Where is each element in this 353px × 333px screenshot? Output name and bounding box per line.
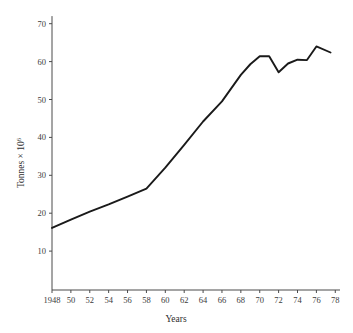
x-tick-label: 56 [123, 295, 132, 305]
x-tick-label: 54 [104, 295, 113, 305]
y-axis-title: Tonnes × 106 [15, 137, 26, 188]
y-tick-label: 50 [38, 95, 47, 105]
chart-page: 10203040506070 1948505254565860626466687… [0, 0, 353, 333]
y-tick-label: 30 [38, 170, 47, 180]
data-series-line [52, 46, 331, 228]
y-tick-label: 40 [38, 132, 47, 142]
y-tick-label: 70 [38, 19, 47, 29]
x-tick-label: 62 [180, 295, 189, 305]
y-tick-label: 20 [38, 208, 47, 218]
x-tick-label: 50 [67, 295, 76, 305]
x-axis-title: Years [165, 314, 187, 324]
y-axis-title-group: Tonnes × 106 [15, 137, 26, 188]
y-tick-label: 10 [38, 246, 47, 256]
x-tick-label: 64 [199, 295, 208, 305]
x-tick-label: 66 [218, 295, 227, 305]
y-axis-title-text: Tonnes × 10 [16, 141, 26, 188]
y-tick-label: 60 [38, 57, 47, 67]
x-tick-label: 1948 [44, 295, 61, 305]
x-axis-ticks: 1948505254565860626466687072747678 [44, 290, 340, 305]
x-tick-label: 60 [161, 295, 170, 305]
x-tick-label: 68 [237, 295, 246, 305]
y-axis-ticks: 10203040506070 [38, 19, 53, 256]
x-tick-label: 72 [274, 295, 283, 305]
x-tick-label: 70 [255, 295, 264, 305]
x-tick-label: 76 [312, 295, 321, 305]
y-axis-title-exponent: 6 [15, 137, 22, 141]
x-tick-label: 52 [86, 295, 95, 305]
x-tick-label: 58 [142, 295, 151, 305]
line-chart: 10203040506070 1948505254565860626466687… [0, 0, 353, 333]
x-tick-label: 78 [331, 295, 340, 305]
x-tick-label: 74 [293, 295, 302, 305]
